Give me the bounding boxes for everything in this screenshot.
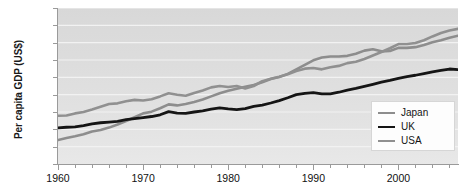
x-tick-mark-minor (92, 165, 93, 168)
x-tick-mark-minor (381, 165, 382, 168)
x-tick-mark-minor (415, 165, 416, 168)
x-tick-mark-minor (126, 165, 127, 168)
x-tick-mark-minor (211, 165, 212, 168)
legend-swatch-usa-icon (378, 140, 395, 142)
legend-swatch-japan-icon (378, 112, 395, 114)
legend-swatch-uk-icon (378, 126, 395, 128)
x-tick-mark-minor (364, 165, 365, 168)
legend-item-japan[interactable]: Japan (372, 106, 454, 120)
x-tick-mark-major (398, 165, 399, 170)
x-tick-mark-major (58, 165, 59, 170)
x-tick-mark-major (228, 165, 229, 170)
x-tick-mark-major (313, 165, 314, 170)
legend-item-usa[interactable]: USA (372, 134, 454, 148)
x-tick-mark-minor (160, 165, 161, 168)
x-tick-mark-minor (279, 165, 280, 168)
x-tick-label: 1970 (131, 172, 154, 184)
x-tick-mark-minor (109, 165, 110, 168)
x-tick-mark-minor (75, 165, 76, 168)
x-tick-mark-minor (296, 165, 297, 168)
x-tick-mark-minor (245, 165, 246, 168)
x-tick-label: 1960 (46, 172, 69, 184)
y-axis-title: Per capita GDP (US$) (13, 14, 24, 166)
x-tick-mark-minor (177, 165, 178, 168)
x-tick-label: 1980 (217, 172, 240, 184)
legend-item-uk[interactable]: UK (372, 120, 454, 134)
x-tick-label: 2000 (387, 172, 410, 184)
x-tick-label: 1990 (302, 172, 325, 184)
x-tick-mark-minor (449, 165, 450, 168)
x-tick-mark-minor (347, 165, 348, 168)
x-tick-mark-minor (194, 165, 195, 168)
x-tick-mark-minor (330, 165, 331, 168)
chart-container: Per capita GDP (US$) 0500010 00015 00020… (0, 0, 468, 192)
legend-label: Japan (401, 108, 428, 118)
x-tick-mark-minor (262, 165, 263, 168)
legend-label: UK (401, 122, 415, 132)
x-tick-mark-major (143, 165, 144, 170)
legend-label: USA (401, 136, 422, 146)
chart-legend: JapanUKUSA (371, 101, 455, 151)
x-tick-mark-minor (432, 165, 433, 168)
